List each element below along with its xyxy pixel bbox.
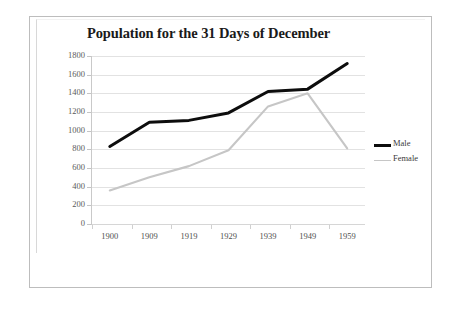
legend-label-female: Female [393,153,418,165]
legend-item-male: Male [374,137,426,152]
legend-swatch-female-icon [374,160,391,161]
legend-swatch-male-icon [374,144,391,147]
series-line-female [110,93,347,190]
series-plot-group [36,19,425,253]
chart-image-canvas: Population for the 31 Days of December 1… [0,0,455,311]
chart-legend: Male Female [374,137,426,167]
series-line-male [110,63,347,146]
line-chart: Population for the 31 Days of December 1… [36,19,425,253]
legend-label-male: Male [393,138,410,150]
legend-item-female: Female [374,152,426,167]
